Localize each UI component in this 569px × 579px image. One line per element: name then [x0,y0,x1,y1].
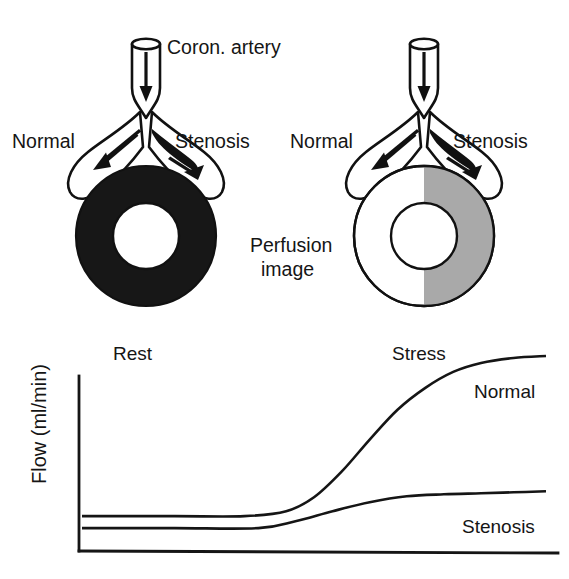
stress-perfusion-ring [354,166,494,306]
stress-artery-opening [410,39,438,49]
stress-ring-cavity [391,203,457,269]
chart-series-label-normal: Normal [474,381,535,402]
rest-ring-cavity [113,203,179,269]
coronary-perfusion-figure: Coron. artery Normal Stenosis [0,0,569,579]
rest-normal-label: Normal [12,130,75,152]
rest-stenosis-label: Stenosis [175,130,250,152]
rest-perfusion-ring [76,166,216,306]
chart-series-label-stenosis: Stenosis [462,516,535,537]
chart-annotation-stress: Stress [392,343,446,364]
stress-stenosis-label: Stenosis [453,130,528,152]
rest-artery-opening [132,39,160,49]
chart-y-axis-title: Flow (ml/min) [28,364,50,484]
coron-artery-label: Coron. artery [167,36,281,58]
stress-normal-label: Normal [290,130,353,152]
perfusion-caption-line-2: image [261,258,314,280]
perfusion-caption-line-1: Perfusion [250,234,332,256]
chart-annotation-rest: Rest [113,343,153,364]
